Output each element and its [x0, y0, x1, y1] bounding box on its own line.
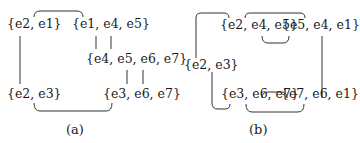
node-a-e2-e3: {e2, e3}	[7, 87, 62, 101]
caption-a: (a)	[66, 123, 84, 137]
arc-a-e3	[34, 103, 112, 111]
node-a-e4-e5-e6-e7: {e4, e5, e6, e7}	[86, 52, 187, 66]
arc-b-e6	[246, 104, 304, 112]
node-a-e3-e6-e7: {e3, e6, e7}	[103, 87, 181, 101]
node-b-e5-e4-e1: {e5, e4, e1}	[282, 18, 360, 32]
caption-b: (b)	[249, 123, 267, 137]
node-a-e1-e4-e5: {e1, e4, e5}	[72, 17, 150, 31]
node-b-e2-e3: {e2, e3}	[184, 58, 239, 72]
node-a-e2-e1: {e2, e1}	[7, 17, 62, 31]
node-b-e7-e6-e1: {e7, e6, e1}	[281, 87, 359, 101]
arc-b-e5	[262, 36, 289, 43]
